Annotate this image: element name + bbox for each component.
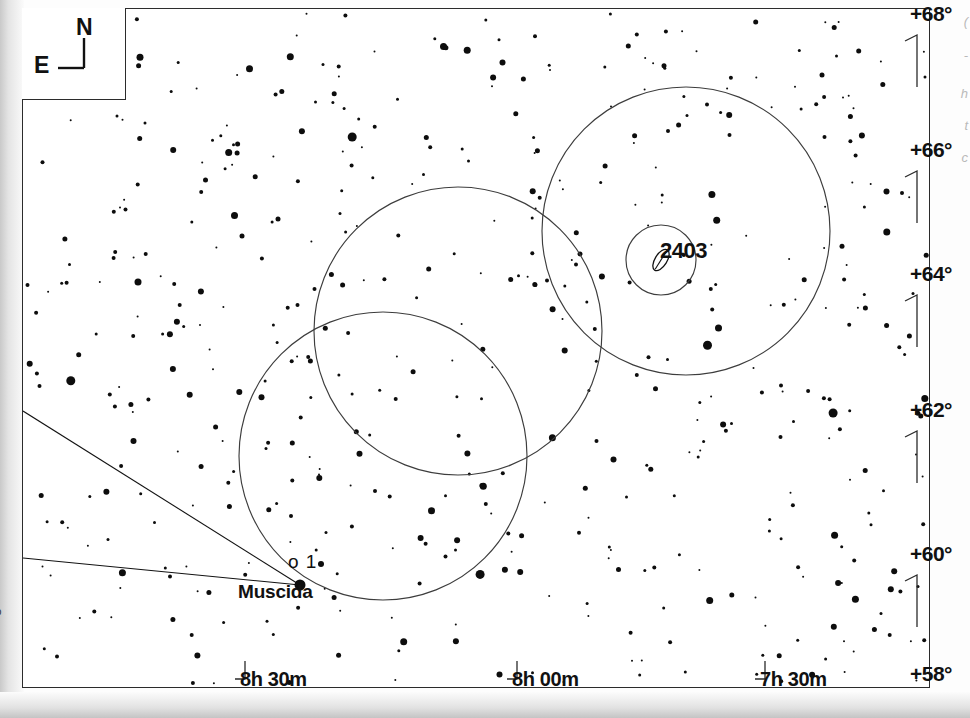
- star-point: [644, 57, 646, 59]
- star-point: [838, 427, 842, 431]
- dec-label-0: +68°: [910, 2, 952, 26]
- star-point: [710, 307, 714, 311]
- dec-label-3: +62°: [910, 398, 952, 422]
- fov-circle-group: [239, 87, 830, 600]
- star-point: [160, 275, 162, 277]
- star-point: [213, 682, 215, 684]
- star-point: [586, 602, 589, 605]
- star-point: [457, 434, 461, 438]
- star-point: [213, 425, 218, 430]
- star-point: [400, 638, 407, 645]
- dec-label-2: +64°: [910, 262, 952, 286]
- star-point: [688, 451, 690, 453]
- star-point: [632, 133, 637, 138]
- star-point: [548, 595, 550, 597]
- star-point: [35, 372, 39, 376]
- star-point: [289, 541, 291, 543]
- star-point: [653, 386, 658, 391]
- star-point: [840, 244, 845, 249]
- star-point: [761, 654, 764, 657]
- star-point: [42, 566, 44, 568]
- star-point: [638, 673, 641, 676]
- star-point: [820, 73, 825, 78]
- star-point: [908, 196, 910, 198]
- star-point: [342, 150, 344, 152]
- star-point: [119, 587, 121, 589]
- star-point: [396, 233, 400, 237]
- star-point: [755, 673, 758, 676]
- star-point: [599, 273, 605, 279]
- star-point: [697, 455, 700, 458]
- star-point: [872, 627, 877, 632]
- star-point: [357, 451, 363, 457]
- star-point: [222, 440, 224, 442]
- scan-shadow-left: [0, 0, 24, 718]
- star-point: [323, 326, 328, 331]
- star-point: [76, 352, 81, 357]
- star-point: [831, 532, 838, 539]
- star-point: [678, 553, 681, 556]
- dec-tick: [905, 295, 917, 347]
- star-point: [847, 323, 851, 327]
- star-point: [710, 244, 712, 246]
- star-point: [724, 429, 728, 433]
- star-point: [730, 422, 733, 425]
- star-point: [146, 397, 150, 401]
- star-point: [771, 106, 773, 108]
- star-point: [310, 241, 312, 243]
- star-point: [880, 61, 882, 63]
- star-point: [726, 112, 732, 118]
- star-point: [880, 612, 883, 615]
- star-point: [719, 111, 722, 114]
- star-point: [339, 212, 342, 215]
- star-point: [225, 149, 232, 156]
- star-point: [116, 114, 119, 117]
- star-point: [308, 359, 313, 364]
- star-point: [662, 63, 667, 68]
- star-point: [392, 547, 394, 549]
- star-point: [351, 392, 354, 395]
- star-label-1: Muscida: [238, 581, 313, 603]
- star-point: [265, 447, 268, 450]
- star-point: [728, 133, 732, 137]
- star-point: [713, 217, 720, 224]
- star-point: [290, 441, 295, 446]
- star-point: [174, 319, 180, 325]
- edge-note-1: -: [964, 48, 968, 63]
- star-point: [790, 492, 792, 494]
- dec-label-5: +58°: [910, 662, 952, 686]
- star-point: [332, 91, 337, 96]
- edge-note-0: (: [964, 14, 968, 29]
- star-point: [187, 392, 193, 398]
- star-point: [418, 535, 424, 541]
- star-point: [777, 653, 782, 658]
- star-point: [548, 64, 551, 67]
- star-point: [534, 152, 536, 154]
- star-point: [318, 474, 320, 476]
- star-point: [337, 65, 341, 69]
- star-point: [863, 468, 868, 473]
- star-point: [828, 437, 830, 439]
- star-point: [95, 333, 98, 336]
- star-point: [714, 283, 717, 286]
- star-point: [835, 580, 841, 586]
- star-point: [625, 496, 628, 499]
- star-point: [782, 391, 784, 393]
- star-point: [344, 231, 347, 234]
- star-point: [593, 327, 597, 331]
- star-point: [848, 114, 853, 119]
- star-point: [215, 246, 217, 248]
- compass-rose: N E: [22, 8, 126, 100]
- star-point: [41, 160, 45, 164]
- star-point: [831, 624, 837, 630]
- star-point: [329, 272, 334, 277]
- star-point: [513, 111, 518, 116]
- star-point: [616, 567, 621, 572]
- star-point: [336, 572, 339, 575]
- star-point: [644, 89, 646, 91]
- star-point: [322, 63, 325, 66]
- star-point: [396, 98, 399, 101]
- star-point: [197, 590, 199, 592]
- star-chart-canvas: [22, 8, 930, 688]
- star-point: [444, 494, 447, 497]
